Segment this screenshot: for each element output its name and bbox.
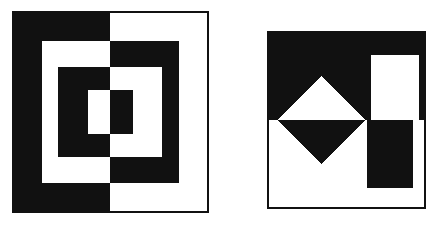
geometric-figure-pair	[0, 0, 436, 239]
left-figure-core-right	[110, 90, 133, 134]
left-figure	[13, 12, 208, 212]
right-figure-upper-bar	[371, 55, 419, 120]
figure-canvas: Abstract black-and-white geometric figur…	[0, 0, 436, 239]
right-figure-lower-bar	[367, 120, 413, 188]
left-figure-core-left	[88, 90, 110, 134]
right-figure	[268, 32, 425, 208]
